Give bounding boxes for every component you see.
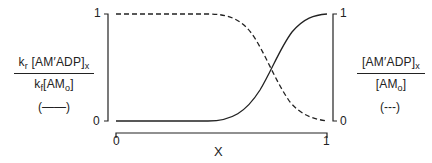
species: [AM′ADP] (32, 55, 85, 69)
x-tick-0: 0 (113, 134, 120, 148)
species: [AM (43, 77, 65, 91)
bracket: ] (70, 77, 74, 91)
right-legend-marker: (---) (368, 100, 412, 114)
left-label-denominator: kf[AMo] (14, 74, 94, 93)
left-label-numerator: kr [AM′ADP]x (14, 55, 94, 74)
right-label-numerator: [AM′ADP]x (357, 55, 425, 74)
bracket: ] (403, 77, 407, 91)
left-axis-label: kr [AM′ADP]x kf[AMo] (14, 55, 94, 93)
species: [AM (376, 77, 398, 91)
right-tick-0: 0 (340, 114, 347, 128)
left-tick-0: 0 (93, 114, 100, 128)
left-y-axis (104, 14, 108, 121)
series-dashed-curve (116, 14, 327, 121)
species: [AM′ADP] (362, 55, 415, 69)
x-axis (116, 133, 327, 138)
x-axis-label: X (214, 144, 223, 159)
right-label-denominator: [AMo] (357, 74, 425, 93)
left-tick-1: 1 (94, 6, 101, 20)
right-tick-1: 1 (340, 6, 347, 20)
right-y-axis (333, 14, 337, 121)
species-sub: x (85, 61, 90, 71)
species-sub: x (415, 61, 420, 71)
rate-sub: r (25, 61, 28, 71)
x-tick-1: 1 (323, 134, 330, 148)
right-axis-label: [AM′ADP]x [AMo] (357, 55, 425, 93)
left-legend-marker: (——) (34, 100, 74, 114)
series-solid-curve (116, 14, 327, 121)
